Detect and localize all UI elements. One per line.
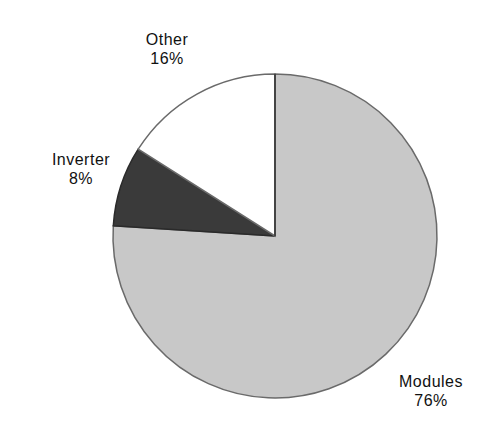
label-modules-pct: 76% [383,391,479,410]
label-modules: Modules 76% [383,372,479,410]
label-inverter-name: Inverter [36,150,126,169]
label-other-name: Other [132,30,202,49]
label-inverter: Inverter 8% [36,150,126,188]
label-inverter-pct: 8% [36,169,126,188]
label-other: Other 16% [132,30,202,68]
label-modules-name: Modules [383,372,479,391]
label-other-pct: 16% [132,49,202,68]
